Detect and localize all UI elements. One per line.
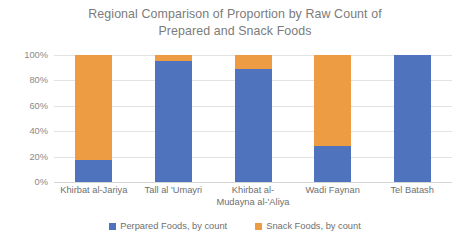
x-axis-category-label: Tel Batash [372, 185, 452, 197]
legend-swatch-icon [255, 223, 262, 230]
bars-layer [54, 55, 452, 182]
x-axis-category-label: Wadi Faynan [293, 185, 373, 197]
y-axis-tick-label: 0% [0, 177, 48, 187]
y-axis-tick-label: 20% [0, 152, 48, 162]
bar-group[interactable] [314, 55, 351, 182]
bar-segment[interactable] [235, 55, 272, 69]
y-axis-tick-label: 80% [0, 75, 48, 85]
bar-group[interactable] [394, 55, 431, 182]
bar-group[interactable] [235, 55, 272, 182]
legend-item[interactable]: Perpared Foods, by count [109, 221, 227, 231]
legend-label: Perpared Foods, by count [120, 221, 227, 231]
x-axis-category-label: Tall al 'Umayri [134, 185, 214, 197]
bar-segment[interactable] [235, 69, 272, 182]
legend-label: Snack Foods, by count [266, 221, 361, 231]
y-axis: 0%20%40%60%80%100% [0, 55, 48, 182]
y-axis-tick-label: 60% [0, 101, 48, 111]
legend-item[interactable]: Snack Foods, by count [255, 221, 361, 231]
bar-group[interactable] [155, 55, 192, 182]
bar-segment[interactable] [75, 55, 112, 160]
bar-segment[interactable] [155, 55, 192, 61]
y-axis-tick-label: 100% [0, 50, 48, 60]
chart-container: Regional Comparison of Proportion by Raw… [0, 0, 470, 236]
chart-title: Regional Comparison of Proportion by Raw… [0, 6, 470, 40]
legend-swatch-icon [109, 223, 116, 230]
gridline [54, 182, 452, 183]
bar-group[interactable] [75, 55, 112, 182]
y-axis-tick-label: 40% [0, 126, 48, 136]
bar-segment[interactable] [155, 61, 192, 182]
bar-segment[interactable] [314, 146, 351, 182]
x-axis-category-label: Khirbat al-Jariya [54, 185, 134, 197]
x-axis-labels: Khirbat al-JariyaTall al 'UmayriKhirbat … [54, 185, 452, 219]
bar-segment[interactable] [75, 160, 112, 182]
chart-legend: Perpared Foods, by countSnack Foods, by … [0, 221, 470, 231]
bar-segment[interactable] [394, 55, 431, 182]
x-axis-category-label: Khirbat al- Mudayna al-'Aliya [213, 185, 293, 208]
bar-segment[interactable] [314, 55, 351, 146]
